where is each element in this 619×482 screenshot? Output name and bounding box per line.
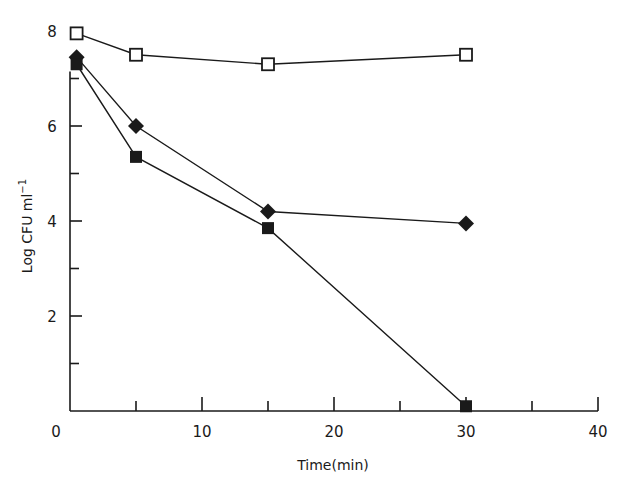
filled-diamond-marker	[260, 204, 276, 220]
x-tick-labels: 010203040	[51, 423, 607, 441]
x-tick-label: 20	[324, 423, 343, 441]
open-square-marker	[460, 49, 472, 61]
y-axis-title: Log CFU ml−1	[17, 179, 35, 273]
filled-square-marker	[130, 151, 142, 163]
y-tick-label: 4	[47, 213, 57, 231]
open-square-marker	[262, 58, 274, 70]
filled-square-marker	[262, 222, 274, 234]
open-square-marker	[71, 27, 83, 39]
y-tick-label: 8	[47, 23, 57, 41]
filled-diamond-marker	[458, 215, 474, 231]
x-axis-title: Time(min)	[296, 457, 369, 473]
y-tick-label: 2	[47, 308, 57, 326]
filled-square-marker	[460, 400, 472, 412]
x-tick-label: 10	[192, 423, 211, 441]
axes	[70, 31, 598, 411]
series-line-filled-diamond	[77, 57, 466, 223]
open-square-marker	[130, 49, 142, 61]
x-tick-label: 0	[51, 423, 61, 441]
x-tick-label: 30	[456, 423, 475, 441]
y-tick-labels: 2468	[47, 23, 57, 326]
chart: 010203040 2468 Time(min) Log CFU ml−1	[0, 0, 619, 482]
x-tick-label: 40	[588, 423, 607, 441]
filled-square-marker	[71, 58, 83, 70]
series-line-filled-square	[77, 64, 466, 406]
y-tick-label: 6	[47, 118, 57, 136]
series-lines	[77, 33, 466, 406]
